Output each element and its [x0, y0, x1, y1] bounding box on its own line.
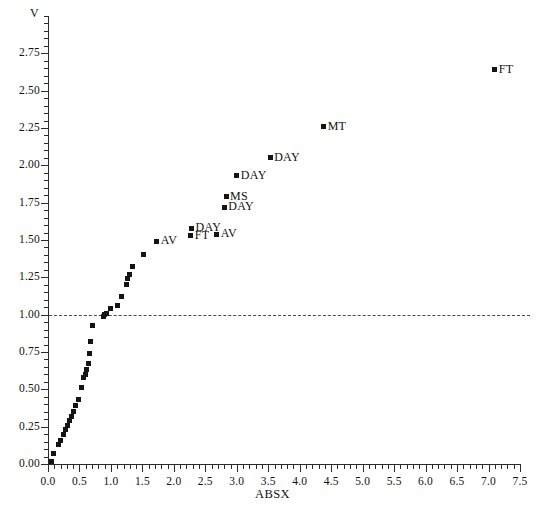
data-point-label: AV: [161, 233, 177, 248]
y-axis-minor-tick: [44, 210, 48, 211]
x-axis-major-tick: [142, 465, 143, 472]
x-axis-minor-tick: [117, 465, 118, 469]
data-point-marker: [127, 272, 132, 277]
y-axis-minor-tick: [44, 188, 48, 189]
x-axis-minor-tick: [407, 465, 408, 469]
data-point-marker: [83, 372, 88, 377]
x-axis-major-tick: [205, 465, 206, 472]
y-axis-minor-tick: [44, 382, 48, 383]
data-point-marker: [108, 306, 113, 311]
x-axis-minor-tick: [262, 465, 263, 469]
y-axis-minor-tick: [44, 68, 48, 69]
y-axis-minor-tick: [44, 270, 48, 271]
y-axis-minor-tick: [44, 31, 48, 32]
x-axis-minor-tick: [130, 465, 131, 469]
x-axis-minor-tick: [470, 465, 471, 469]
y-axis-major-tick: [41, 165, 48, 166]
x-axis-minor-tick: [224, 465, 225, 469]
x-axis-minor-tick: [451, 465, 452, 469]
x-axis-minor-tick: [482, 465, 483, 469]
x-axis-minor-tick: [61, 465, 62, 469]
x-axis-title: ABSX: [255, 487, 290, 502]
data-point-marker: [86, 361, 91, 366]
x-axis-minor-tick: [319, 465, 320, 469]
x-axis-major-tick: [300, 465, 301, 472]
y-axis-major-tick: [41, 53, 48, 54]
y-axis-minor-tick: [44, 46, 48, 47]
y-axis-tick-label: 0.00: [8, 457, 40, 469]
x-axis-minor-tick: [231, 465, 232, 469]
y-axis-minor-tick: [44, 83, 48, 84]
y-axis-minor-tick: [44, 419, 48, 420]
data-point-marker: [65, 423, 70, 428]
y-axis-minor-tick: [44, 113, 48, 114]
y-axis-minor-tick: [44, 16, 48, 17]
data-point-marker: [268, 155, 273, 160]
x-axis-minor-tick: [432, 465, 433, 469]
y-axis-major-tick: [41, 315, 48, 316]
data-point-marker: [492, 67, 497, 72]
y-axis-major-tick: [41, 277, 48, 278]
data-point-marker: [154, 239, 159, 244]
data-point-marker: [115, 303, 120, 308]
data-point-marker: [61, 432, 66, 437]
data-point-marker: [234, 173, 239, 178]
x-axis-minor-tick: [369, 465, 370, 469]
x-axis-minor-tick: [199, 465, 200, 469]
data-point-marker: [321, 124, 326, 129]
y-axis-minor-tick: [44, 76, 48, 77]
x-axis-minor-tick: [350, 465, 351, 469]
data-point-marker: [58, 438, 63, 443]
x-axis-major-tick: [457, 465, 458, 472]
y-axis-tick-label: 1.25: [8, 270, 40, 282]
x-axis-minor-tick: [356, 465, 357, 469]
data-point-marker: [125, 276, 130, 281]
y-axis-minor-tick: [44, 442, 48, 443]
x-axis-minor-tick: [54, 465, 55, 469]
data-point-marker: [51, 451, 56, 456]
y-axis-minor-tick: [44, 359, 48, 360]
data-point-marker: [222, 205, 227, 210]
y-axis-minor-tick: [44, 300, 48, 301]
y-axis-minor-tick: [44, 143, 48, 144]
y-axis-minor-tick: [44, 457, 48, 458]
y-axis-minor-tick: [44, 247, 48, 248]
x-axis-minor-tick: [514, 465, 515, 469]
y-axis-tick-label: 2.50: [8, 84, 40, 96]
y-axis-minor-tick: [44, 449, 48, 450]
x-axis-minor-tick: [136, 465, 137, 469]
y-axis-minor-tick: [44, 38, 48, 39]
y-axis-minor-tick: [44, 98, 48, 99]
y-axis-minor-tick: [44, 330, 48, 331]
data-point-marker: [69, 414, 74, 419]
x-axis-minor-tick: [161, 465, 162, 469]
y-axis-minor-tick: [44, 434, 48, 435]
x-axis-major-tick: [174, 465, 175, 472]
y-axis-minor-tick: [44, 23, 48, 24]
data-point-marker: [189, 226, 194, 231]
y-axis-minor-tick: [44, 218, 48, 219]
x-axis-minor-tick: [186, 465, 187, 469]
x-axis-major-tick: [237, 465, 238, 472]
data-point-label: DAY: [274, 150, 300, 165]
x-axis-major-tick: [394, 465, 395, 472]
y-axis-major-tick: [41, 464, 48, 465]
x-axis-minor-tick: [212, 465, 213, 469]
x-axis-minor-tick: [218, 465, 219, 469]
y-axis-major-tick: [41, 91, 48, 92]
x-axis-minor-tick: [168, 465, 169, 469]
x-axis-minor-tick: [155, 465, 156, 469]
x-axis-minor-tick: [382, 465, 383, 469]
y-axis-major-tick: [41, 427, 48, 428]
data-point-label: AV: [221, 226, 237, 241]
data-point-marker: [188, 233, 193, 238]
y-axis-minor-tick: [44, 307, 48, 308]
x-axis-minor-tick: [413, 465, 414, 469]
y-axis-minor-tick: [44, 374, 48, 375]
y-axis-tick-label: 1.75: [8, 196, 40, 208]
data-point-marker: [87, 351, 92, 356]
x-axis-major-tick: [426, 465, 427, 472]
y-axis-tick-label: 2.00: [8, 158, 40, 170]
data-point-marker: [130, 264, 135, 269]
x-axis-minor-tick: [193, 465, 194, 469]
